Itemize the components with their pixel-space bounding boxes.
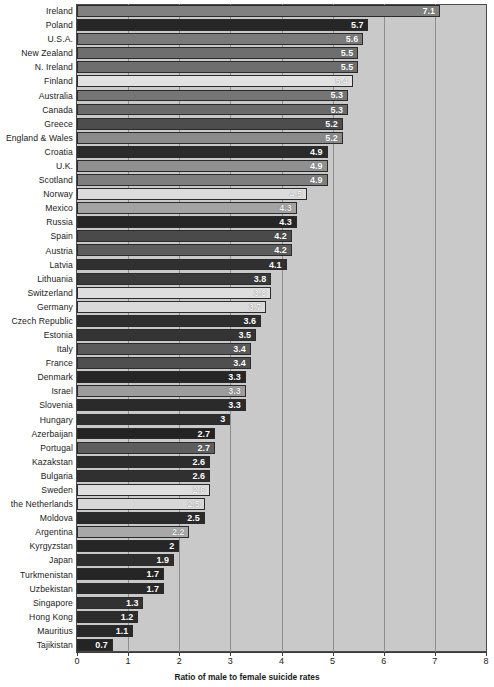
- category-label: Azerbaijan: [31, 429, 73, 438]
- bar: 4.3: [77, 216, 297, 228]
- bar-row: Croatia4.9: [0, 145, 494, 159]
- category-label: Tajikistan: [37, 641, 73, 650]
- bar-row: Spain4.2: [0, 229, 494, 243]
- x-tick-label: 5: [330, 657, 335, 666]
- bar-row: Latvia4.1: [0, 258, 494, 272]
- bar: 4.9: [77, 160, 328, 172]
- bar: 1.3: [77, 597, 143, 609]
- category-label: Germany: [37, 303, 73, 312]
- bar-row: England & Wales5.2: [0, 131, 494, 145]
- bar-row: Germany3.7: [0, 300, 494, 314]
- bar: 4.9: [77, 174, 328, 186]
- category-label: Croatia: [45, 148, 73, 157]
- category-label: Hong Kong: [29, 612, 73, 621]
- bar: 4.5: [77, 188, 307, 200]
- bar-row: Lithuania3.8: [0, 272, 494, 286]
- bar-value-label: 4.9: [310, 161, 323, 170]
- bar: 1.7: [77, 568, 164, 580]
- bar-row: France3.4: [0, 356, 494, 370]
- category-label: Denmark: [37, 373, 73, 382]
- category-label: Argentina: [35, 528, 73, 537]
- category-label: Portugal: [40, 443, 73, 452]
- bar-row: Russia4.3: [0, 215, 494, 229]
- bar-value-label: 5.7: [351, 21, 364, 30]
- category-label: Ireland: [46, 7, 73, 16]
- bar-row: Greece5.2: [0, 117, 494, 131]
- bar: 4.1: [77, 259, 287, 271]
- bar: 2: [77, 540, 179, 552]
- category-label: U.K.: [56, 162, 73, 171]
- bar-row: Australia5.3: [0, 89, 494, 103]
- bar: 5.7: [77, 19, 368, 31]
- bar-value-label: 4.2: [274, 246, 287, 255]
- bar-value-label: 1.3: [126, 598, 139, 607]
- category-label: Australia: [39, 91, 73, 100]
- bar-row: U.K.4.9: [0, 159, 494, 173]
- category-label: Kazakstan: [32, 458, 73, 467]
- bar-value-label: 2.2: [172, 528, 185, 537]
- category-label: Estonia: [44, 331, 73, 340]
- bar-value-label: 4.9: [310, 147, 323, 156]
- bar-row: Moldova2.5: [0, 511, 494, 525]
- category-label: Israel: [51, 387, 73, 396]
- x-tick-label: 1: [126, 657, 131, 666]
- bar: 3.5: [77, 329, 256, 341]
- category-label: Japan: [49, 556, 73, 565]
- x-tick-label: 2: [177, 657, 182, 666]
- bar: 0.7: [77, 639, 113, 651]
- category-label: Mauritius: [37, 627, 73, 636]
- bar-row: Poland5.7: [0, 18, 494, 32]
- category-label: Latvia: [49, 260, 73, 269]
- bar-value-label: 3.3: [228, 387, 241, 396]
- bar: 2.5: [77, 498, 205, 510]
- category-label: Uzbekistan: [29, 584, 73, 593]
- bar: 5.4: [77, 75, 353, 87]
- bar-row: Estonia3.5: [0, 328, 494, 342]
- bar-value-label: 4.1: [269, 260, 282, 269]
- bar-value-label: 3.5: [238, 330, 251, 339]
- bar-row: Norway4.5: [0, 187, 494, 201]
- bar-row: Finland5.4: [0, 74, 494, 88]
- bar-value-label: 1.1: [116, 626, 129, 635]
- bar-row: Canada5.3: [0, 103, 494, 117]
- bar-value-label: 3.3: [228, 401, 241, 410]
- bar-value-label: 3.6: [244, 316, 257, 325]
- bar-value-label: 4.9: [310, 175, 323, 184]
- bar-value-label: 3.7: [249, 302, 262, 311]
- bar-value-label: 1.9: [157, 556, 170, 565]
- bar-value-label: 4.3: [279, 218, 292, 227]
- bar-value-label: 2.6: [192, 471, 205, 480]
- bar-row: Azerbaijan2.7: [0, 427, 494, 441]
- bar-value-label: 3.3: [228, 373, 241, 382]
- category-label: New Zealand: [21, 49, 73, 58]
- category-label: Canada: [42, 105, 73, 114]
- bar-value-label: 5.4: [336, 77, 349, 86]
- bar: 1.7: [77, 583, 164, 595]
- bar: 2.6: [77, 470, 210, 482]
- bar-row: Kyrgyzstan2: [0, 539, 494, 553]
- category-label: Russia: [46, 218, 73, 227]
- category-label: Slovenia: [39, 401, 73, 410]
- category-label: Poland: [46, 21, 73, 30]
- bar-value-label: 2.5: [187, 499, 200, 508]
- bar: 3.3: [77, 399, 246, 411]
- category-label: Norway: [43, 190, 73, 199]
- bar: 4.3: [77, 202, 297, 214]
- bar-value-label: 2.5: [187, 514, 200, 523]
- bar: 5.3: [77, 90, 348, 102]
- bar: 4.2: [77, 230, 292, 242]
- category-label: Czech Republic: [11, 317, 73, 326]
- bar-value-label: 3: [220, 415, 225, 424]
- bar-value-label: 4.3: [279, 204, 292, 213]
- bar-rows-container: Ireland7.1Poland5.7U.S.A.5.6New Zealand5…: [0, 0, 494, 656]
- bar: 5.5: [77, 47, 358, 59]
- bar-value-label: 5.3: [330, 105, 343, 114]
- category-label: England & Wales: [6, 134, 73, 143]
- x-tick-label: 3: [228, 657, 233, 666]
- category-label: U.S.A.: [48, 35, 73, 44]
- bar-row: Portugal2.7: [0, 441, 494, 455]
- bar: 3.3: [77, 385, 246, 397]
- bar-row: Hungary3: [0, 413, 494, 427]
- bar-row: Switzerland3.8: [0, 286, 494, 300]
- bar: 3.6: [77, 315, 261, 327]
